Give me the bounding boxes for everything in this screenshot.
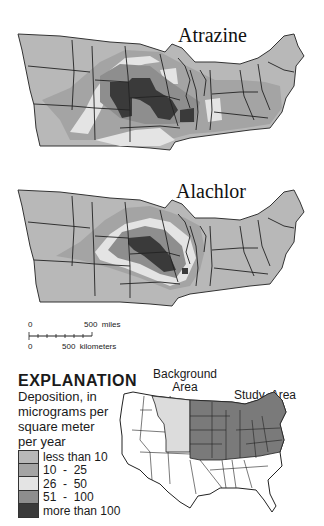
legend-items: less than 10 10 - 25 26 - 50 51 - 100 mo… [18, 450, 138, 518]
legend: EXPLANATION Deposition, in micrograms pe… [18, 372, 138, 518]
legend-item-more-than-100: more than 100 [18, 504, 138, 518]
legend-swatch [18, 491, 39, 505]
legend-subtitle-line-4: per year [18, 434, 138, 449]
legend-swatch [18, 464, 39, 478]
legend-label: more than 100 [43, 504, 120, 518]
scale-km-zero: 0 [28, 342, 32, 351]
alachlor-map-panel: Alachlor [0, 160, 324, 318]
background-area-label: Background Area [150, 368, 220, 394]
atrazine-map-panel: Atrazine [0, 0, 324, 160]
legend-swatch [18, 477, 39, 491]
legend-title: EXPLANATION [18, 372, 138, 389]
legend-swatch [18, 450, 39, 464]
scale-km-label: 500 kilometers [62, 342, 116, 351]
legend-subtitle-line-3: square meter [18, 419, 138, 434]
legend-label: 10 - 25 [43, 463, 87, 477]
atrazine-deposition-map [0, 0, 324, 160]
legend-item-less-than-10: less than 10 [18, 450, 138, 464]
atrazine-map-title: Atrazine [178, 24, 247, 47]
alachlor-map-title: Alachlor [176, 180, 246, 203]
alachlor-deposition-map [0, 160, 324, 318]
legend-label: 26 - 50 [43, 477, 87, 491]
scale-ruler [28, 330, 128, 342]
study-area-label: Study Area [234, 389, 296, 402]
legend-item-10-25: 10 - 25 [18, 464, 138, 478]
background-area-label-line-2: Area [150, 381, 220, 394]
scale-miles-label: 500 miles [84, 320, 120, 329]
legend-subtitle-line-1: Deposition, in [18, 389, 138, 404]
legend-item-26-50: 26 - 50 [18, 477, 138, 491]
legend-label: 51 - 100 [43, 490, 94, 504]
legend-item-51-100: 51 - 100 [18, 491, 138, 505]
scale-bar: 0 500 miles 0 500 kilometers [28, 320, 128, 360]
legend-subtitle-line-2: micrograms per [18, 404, 138, 419]
scale-miles-zero: 0 [28, 320, 32, 329]
legend-swatch [18, 504, 39, 518]
legend-label: less than 10 [43, 450, 108, 464]
